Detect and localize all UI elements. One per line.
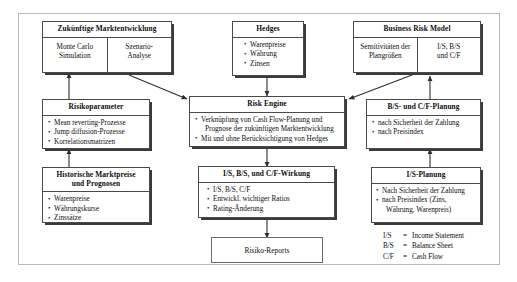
list-item: Währung [244, 50, 299, 59]
arrow-zukuenftige-to-risk-engine [129, 75, 187, 99]
box-risk-engine-list: Verknüpfung von Cash Flow-Planung und Pr… [195, 116, 340, 145]
list-item: Zinssätze [48, 214, 145, 223]
legend-key-is: I/S [383, 231, 403, 241]
list-item: Währungskurse [48, 205, 145, 214]
legend-eq: = [403, 241, 412, 251]
box-wirkung-header: I/S, B/S, und C/F-Wirkung [199, 167, 334, 183]
list-item: Entwickl. wichtiger Ratios [207, 195, 330, 204]
box-is-planung-list: Nach Sicherheit der Zahlung nach Preisin… [376, 187, 476, 216]
legend: I/S = Income Statement B/S = Balance She… [383, 231, 464, 262]
legend-value-cf: Cash Flow [412, 252, 443, 262]
box-zukuenftige-header: Zukünftige Marktentwicklung [43, 22, 171, 38]
legend-row-bs: B/S = Balance Sheet [383, 241, 464, 251]
list-item: Mean reverting-Prozesse [48, 119, 145, 128]
list-item: Warenpreise [48, 195, 145, 204]
list-item: nach Preisindex [372, 128, 476, 137]
box-risk-engine-header: Risk Engine [190, 97, 344, 113]
list-item: Jump diffusion-Prozesse [48, 128, 145, 137]
box-is-bs-cf-wirkung[interactable]: I/S, B/S, und C/F-Wirkung I/S, B/S, C/F … [198, 166, 335, 218]
list-item: I/S, B/S, C/F [207, 186, 330, 195]
box-hedges-header: Hedges [233, 22, 303, 38]
legend-value-bs: Balance Sheet [412, 241, 453, 251]
box-brm-is-bs-cf: I/S, B/S und C/F [418, 38, 481, 73]
box-wirkung-list: I/S, B/S, C/F Entwickl. wichtiger Ratios… [207, 186, 330, 215]
box-business-risk-model[interactable]: Business Risk Model Sensitivitäten der P… [353, 21, 481, 73]
box-is-planung[interactable]: I/S-Planung Nach Sicherheit der Zahlung … [371, 167, 481, 223]
box-zukuenftige-marktentwicklung[interactable]: Zukünftige Marktentwicklung Monte Carlo … [42, 21, 172, 73]
box-hedges[interactable]: Hedges Warenpreise Währung Zinsen [232, 21, 304, 76]
legend-eq: = [403, 231, 412, 241]
box-bs-cf-planung-list: nach Sicherheit der Zahlung nach Preisin… [372, 119, 476, 138]
box-risiko-reports-label: Risiko-Reports [212, 238, 322, 264]
box-risikoparameter[interactable]: Risikoparameter Mean reverting-Prozesse … [42, 99, 150, 149]
box-historische-header: Historische Marktpreise und Prognosen [43, 168, 149, 192]
box-is-planung-header: I/S-Planung [372, 168, 480, 184]
list-item: Verknüpfung von Cash Flow-Planung und [195, 116, 340, 125]
legend-eq: = [403, 252, 412, 262]
diagram-canvas: Zukünftige Marktentwicklung Monte Carlo … [0, 0, 517, 282]
list-item: Rating-Änderung [207, 205, 330, 214]
box-hedges-list: Warenpreise Währung Zinsen [244, 41, 299, 70]
box-risk-engine[interactable]: Risk Engine Verknüpfung von Cash Flow-Pl… [189, 96, 345, 147]
arrow-business-risk-model-to-risk-engine [349, 75, 412, 99]
list-item-continuation: Währung, Warenpreis) [376, 206, 476, 215]
box-risikoparameter-list: Mean reverting-Prozesse Jump diffusion-P… [48, 119, 145, 148]
box-bs-cf-planung-header: B/S- und C/F-Planung [367, 100, 480, 116]
box-zukuenftige-monte-carlo: Monte Carlo Simulation [43, 38, 108, 73]
legend-row-cf: C/F = Cash Flow [383, 252, 464, 262]
list-item: Warenpreise [244, 41, 299, 50]
list-item: Mit und ohne Berücksichtigung von Hedges [195, 135, 340, 144]
legend-key-cf: C/F [383, 252, 403, 262]
box-historische-list: Warenpreise Währungskurse Zinssätze [48, 195, 145, 224]
box-bs-cf-planung[interactable]: B/S- und C/F-Planung nach Sicherheit der… [366, 99, 481, 149]
legend-row-is: I/S = Income Statement [383, 231, 464, 241]
list-item: Korrelationsmatrizen [48, 138, 145, 147]
legend-value-is: Income Statement [412, 231, 464, 241]
legend-key-bs: B/S [383, 241, 403, 251]
list-item-continuation: Prognose der zukünftigen Marktentwicklun… [195, 125, 340, 134]
box-zukuenftige-szenario: Szenario- Analyse [108, 38, 172, 73]
box-risikoparameter-header: Risikoparameter [43, 100, 149, 116]
list-item: nach Preisindex (Zins, [376, 196, 476, 205]
list-item: Nach Sicherheit der Zahlung [376, 187, 476, 196]
list-item: Zinsen [244, 60, 299, 69]
box-business-risk-model-header: Business Risk Model [354, 22, 480, 38]
box-brm-sensitivitaeten: Sensitivitäten der Plangrößen [354, 38, 418, 73]
box-historische-marktpreise[interactable]: Historische Marktpreise und Prognosen Wa… [42, 167, 150, 223]
box-risiko-reports[interactable]: Risiko-Reports [211, 237, 323, 263]
list-item: nach Sicherheit der Zahlung [372, 119, 476, 128]
